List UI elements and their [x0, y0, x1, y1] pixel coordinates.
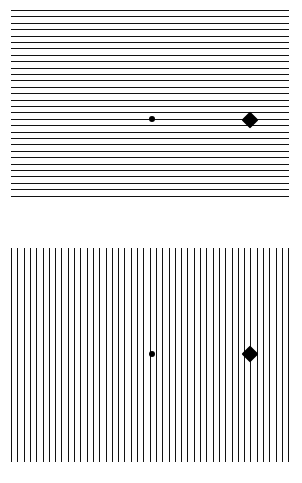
grating-line: [24, 248, 25, 462]
grating-line: [74, 248, 75, 462]
grating-line: [11, 196, 289, 197]
grating-line: [11, 80, 289, 81]
small-dot-target: [149, 351, 155, 357]
grating-line: [269, 248, 270, 462]
grating-line: [11, 248, 12, 462]
grating-line: [93, 248, 94, 462]
grating-line: [43, 248, 44, 462]
grating-line: [49, 248, 50, 462]
grating-line: [187, 248, 188, 462]
grating-line: [288, 248, 289, 462]
grating-line: [225, 248, 226, 462]
grating-line: [219, 248, 220, 462]
grating-line: [11, 48, 289, 49]
grating-line: [131, 248, 132, 462]
grating-line: [11, 42, 289, 43]
grating-line: [11, 151, 289, 152]
grating-line: [11, 106, 289, 107]
grating-line: [11, 176, 289, 177]
grating-line: [11, 61, 289, 62]
grating-line: [80, 248, 81, 462]
grating-line: [238, 248, 239, 462]
grating-line: [11, 36, 289, 37]
grating-line: [11, 87, 289, 88]
grating-line: [200, 248, 201, 462]
grating-line: [181, 248, 182, 462]
small-dot-target: [149, 116, 155, 122]
panel-vertical-grating: [0, 241, 302, 483]
grating-line: [213, 248, 214, 462]
panel-horizontal-grating: [0, 0, 302, 241]
grating-line: [11, 157, 289, 158]
grating-line: [11, 10, 289, 11]
grating-line: [11, 170, 289, 171]
grating-line: [11, 138, 289, 139]
grating-line: [11, 183, 289, 184]
grating-line: [124, 248, 125, 462]
grating-line: [36, 248, 37, 462]
grating-line: [11, 93, 289, 94]
grating-line: [11, 55, 289, 56]
figure-root: [0, 0, 302, 483]
grating-line: [206, 248, 207, 462]
grating-line: [263, 248, 264, 462]
grating-line: [137, 248, 138, 462]
grating-line: [99, 248, 100, 462]
grating-line: [11, 23, 289, 24]
grating-line: [55, 248, 56, 462]
grating-line: [87, 248, 88, 462]
grating-line: [11, 189, 289, 190]
grating-line: [118, 248, 119, 462]
grating-line: [175, 248, 176, 462]
grating-line: [68, 248, 69, 462]
grating-line: [112, 248, 113, 462]
grating-line: [156, 248, 157, 462]
grating-line: [11, 144, 289, 145]
grating-line: [143, 248, 144, 462]
grating-line: [11, 29, 289, 30]
grating-line: [194, 248, 195, 462]
grating-line: [11, 132, 289, 133]
grating-line: [276, 248, 277, 462]
grating-line: [61, 248, 62, 462]
grating-line: [106, 248, 107, 462]
grating-line: [17, 248, 18, 462]
grating-line: [162, 248, 163, 462]
grating-line: [169, 248, 170, 462]
grating-line: [282, 248, 283, 462]
grating-line: [11, 74, 289, 75]
grating-line: [11, 16, 289, 17]
grating-line: [232, 248, 233, 462]
grating-line: [11, 68, 289, 69]
grating-line: [30, 248, 31, 462]
grating-line: [11, 100, 289, 101]
grating-line: [11, 164, 289, 165]
